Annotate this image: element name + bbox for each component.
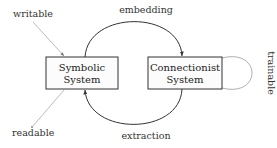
diagram-canvas: writable readable embedding extraction t… bbox=[0, 0, 277, 148]
extraction-label: extraction bbox=[121, 130, 170, 141]
readable-label: readable bbox=[12, 127, 55, 138]
embedding-edge: embedding bbox=[85, 4, 182, 57]
connectionist-label-line2: System bbox=[166, 74, 204, 85]
writable-annotation: writable bbox=[13, 8, 64, 56]
embedding-arrow bbox=[85, 22, 182, 57]
embedding-label: embedding bbox=[119, 4, 173, 15]
trainable-loop bbox=[222, 57, 252, 90]
symbolic-label-line1: Symbolic bbox=[59, 62, 106, 73]
connectionist-label-line1: Connectionist bbox=[150, 62, 220, 73]
readable-arrow bbox=[33, 90, 64, 126]
trainable-edge: trainable bbox=[222, 51, 277, 95]
extraction-arrow bbox=[85, 89, 182, 124]
trainable-label: trainable bbox=[266, 51, 277, 95]
readable-annotation: readable bbox=[12, 90, 64, 138]
writable-label: writable bbox=[13, 8, 53, 19]
connectionist-system-node: Connectionist System bbox=[148, 57, 222, 89]
extraction-edge: extraction bbox=[85, 89, 182, 141]
symbolic-label-line2: System bbox=[63, 74, 101, 85]
symbolic-system-node: Symbolic System bbox=[46, 57, 118, 89]
writable-arrow bbox=[33, 22, 64, 56]
